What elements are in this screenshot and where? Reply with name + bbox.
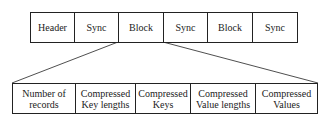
top-cell-block: Block [118,12,164,43]
label-line: Key lengths [81,99,129,110]
top-cell-block: Block [207,12,253,43]
block-cell-compressed-value-lengths: Compressed Value lengths [190,83,256,114]
top-cell-sync: Sync [74,12,119,43]
top-cell-sync: Sync [163,12,208,43]
block-cell-compressed-keys: Compressed Keys [135,83,191,114]
label-line: Compressed [81,88,130,99]
label-line: records [29,99,58,110]
label-line: Keys [153,99,174,110]
top-cell-sync: Sync [252,12,298,43]
block-cell-compressed-key-lengths: Compressed Key lengths [75,83,136,114]
label-line: Compressed [198,88,247,99]
label-line: Value lengths [196,99,250,110]
label-line: Number of [22,88,66,99]
block-cell-compressed-values: Compressed Values [255,83,318,114]
block-cell-number-of-records: Number of records [12,83,76,114]
label-line: Compressed [262,88,311,99]
label-line: Values [273,99,300,110]
label-line: Compressed [138,88,187,99]
top-cell-header: Header [30,12,75,43]
